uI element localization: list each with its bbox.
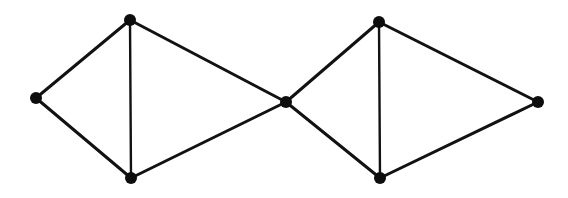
graph-figure: left-apexupper-leftlower-leftcenter-cutu… [0, 0, 568, 198]
graph-canvas: left-apexupper-leftlower-leftcenter-cutu… [0, 0, 568, 198]
graph-vertex: right-apex [532, 96, 544, 108]
graph-vertex: left-apex [30, 92, 42, 104]
graph-edge [379, 22, 380, 178]
graph-vertex: lower-left [125, 172, 137, 184]
graph-edge [130, 20, 131, 178]
graph-vertex: lower-right [374, 172, 386, 184]
graph-vertex: upper-left [124, 14, 136, 26]
graph-vertex: upper-right [373, 16, 385, 28]
graph-vertex: center-cut [280, 96, 292, 108]
